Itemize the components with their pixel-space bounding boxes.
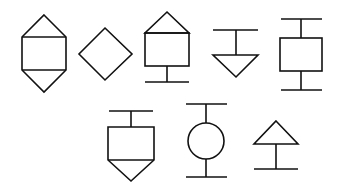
symbol-triangle-on-stand	[254, 121, 298, 169]
symbol-rectangle-between-bars	[280, 19, 322, 90]
symbol-elongated-hexagon	[22, 15, 66, 92]
symbol-diamond	[79, 28, 132, 80]
symbol-house-on-stand	[145, 12, 189, 82]
symbol-hanging-triangle	[213, 30, 258, 77]
symbol-hanging-pointed-rectangle	[108, 111, 154, 181]
symbols-diagram	[0, 0, 341, 194]
symbol-circle-between-bars	[186, 104, 227, 177]
